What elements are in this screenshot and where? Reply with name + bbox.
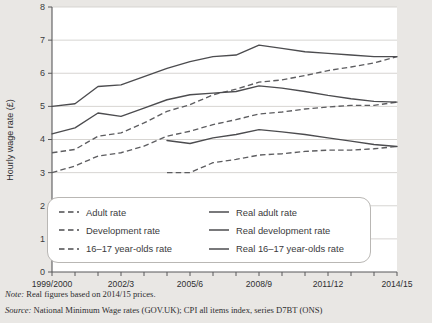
legend-item[interactable]: Real adult rate — [208, 207, 360, 218]
source-label: Source: — [5, 305, 31, 315]
x-tick-label: 2011/12 — [313, 279, 344, 289]
y-axis-title: Hourly wage rate (£) — [5, 99, 15, 181]
chart-canvas: 012345678 1999/20002002/32005/62008/9201… — [0, 0, 432, 323]
y-tick-label: 0 — [40, 267, 45, 277]
dashed-line-icon — [58, 208, 80, 216]
y-tick-label: 7 — [40, 35, 45, 45]
y-tick-label: 4 — [40, 134, 45, 144]
dashed-line-icon — [58, 245, 80, 253]
chart-legend: Adult rateReal adult rateDevelopment rat… — [47, 197, 371, 263]
legend-item[interactable]: Real development rate — [208, 225, 360, 236]
y-tick-label: 2 — [40, 201, 45, 211]
note-footnote: Note: Real figures based on 2014/15 pric… — [5, 289, 156, 299]
source-footnote: Source: National Minimum Wage rates (GOV… — [5, 305, 322, 315]
note-label: Note: — [5, 289, 24, 299]
y-tick-label: 5 — [40, 101, 45, 111]
legend-label: Real development rate — [236, 225, 330, 236]
solid-line-icon — [208, 208, 230, 216]
y-tick-label: 8 — [40, 2, 45, 12]
x-tick-label: 2002/3 — [108, 279, 135, 289]
x-tick-label: 2005/6 — [177, 279, 204, 289]
legend-item[interactable]: Real 16–17 year-olds rate — [208, 243, 360, 254]
x-tick-label: 2008/9 — [246, 279, 273, 289]
solid-line-icon — [208, 245, 230, 253]
legend-label: Real 16–17 year-olds rate — [236, 243, 344, 254]
legend-item[interactable]: Adult rate — [58, 207, 208, 218]
x-tick-label: 2014/15 — [381, 279, 412, 289]
y-tick-label: 1 — [40, 234, 45, 244]
legend-label: Development rate — [86, 225, 160, 236]
y-axis-tick-labels: 012345678 — [40, 2, 45, 277]
legend-item[interactable]: Development rate — [58, 225, 208, 236]
legend-item[interactable]: 16–17 year-olds rate — [58, 243, 208, 254]
source-text: National Minimum Wage rates (GOV.UK); CP… — [31, 305, 322, 315]
y-tick-label: 3 — [40, 168, 45, 178]
legend-label: Adult rate — [86, 207, 126, 218]
y-tick-label: 6 — [40, 68, 45, 78]
solid-line-icon — [208, 226, 230, 234]
wage-rate-line-chart: 012345678 1999/20002002/32005/62008/9201… — [0, 0, 432, 323]
x-axis-tick-labels: 1999/20002002/32005/62008/92011/122014/1… — [32, 279, 413, 289]
dashed-line-icon — [58, 226, 80, 234]
x-axis-ticks — [52, 272, 397, 276]
note-text: Real figures based on 2014/15 prices. — [24, 289, 156, 299]
legend-label: 16–17 year-olds rate — [86, 243, 172, 254]
x-tick-label: 1999/2000 — [32, 279, 73, 289]
legend-label: Real adult rate — [236, 207, 297, 218]
